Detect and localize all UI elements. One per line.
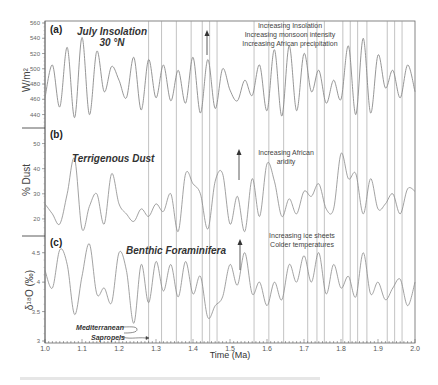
y-tick-label: 3 — [37, 338, 41, 344]
panel-b-ylabel: % Dust — [21, 164, 32, 196]
panel-a-annotation-1: Increasing Insolation — [258, 22, 322, 30]
panel-a-annotation-2: Increasing monsoon intensity — [245, 31, 336, 39]
x-tick-label: 1.6 — [262, 345, 272, 352]
panel-a-title: July Insolation — [77, 26, 147, 37]
d18o-series-line — [45, 244, 415, 324]
panel-c-title: Benthic Foraminifera — [126, 245, 226, 256]
event-vertical-lines — [149, 21, 402, 343]
y-tick-label: 30 — [33, 191, 40, 197]
y-tick-label: 50 — [33, 141, 40, 147]
x-axis-label: Time (Ma) — [210, 350, 251, 360]
sapropels-label-2: Sapropels — [91, 334, 125, 342]
y-tick-label: 4.5 — [32, 250, 41, 256]
panel-b-annotation-2: aridity — [277, 158, 296, 166]
y-tick-label: 40 — [33, 166, 40, 172]
x-tick-label: 1.2 — [114, 345, 124, 352]
x-tick-label: 1.4 — [188, 345, 198, 352]
panel-a-annotation-3: Increasing African precipitation — [242, 40, 337, 48]
x-tick-label: 2.0 — [410, 345, 420, 352]
up-arrow-icon — [237, 149, 242, 180]
panel-c-annotation-1: Increasing ice sheets — [269, 232, 335, 240]
panel-b-title: Terrigenous Dust — [72, 153, 155, 164]
x-tick-label: 1.7 — [299, 345, 309, 352]
x-tick-label: 1.0 — [40, 345, 50, 352]
sapropel-pointer-arrow — [120, 327, 149, 340]
y-tick-label: 4 — [37, 279, 41, 285]
figure-caption-blur — [20, 377, 320, 380]
panel-c-ylabel: δ¹⁸O (‰) — [24, 270, 35, 310]
panel-b-annotation-1: Increasing African — [258, 149, 314, 157]
panel-a-letter: (a) — [50, 24, 62, 35]
dust-series-line — [45, 153, 415, 232]
panel-a-ylabel: W/m² — [21, 67, 32, 92]
x-tick-label: 1.1 — [77, 345, 87, 352]
insolation-series-line — [45, 37, 415, 117]
y-tick-label: 520 — [30, 51, 41, 57]
up-arrow-icon — [205, 30, 210, 55]
y-tick-label: 440 — [30, 112, 41, 118]
y-tick-label: 540 — [30, 35, 41, 41]
x-tick-label: 1.8 — [336, 345, 346, 352]
panel-b-letter: (b) — [50, 129, 63, 140]
y-tick-label: 560 — [30, 20, 41, 26]
y-tick-label: 460 — [30, 96, 41, 102]
paleoclimate-figure: 4404604805005205405602030405033.544.5 1.… — [0, 0, 438, 385]
x-tick-label: 1.9 — [373, 345, 383, 352]
x-tick-label: 1.3 — [151, 345, 161, 352]
panel-c-annotation-2: Colder temperatures — [270, 241, 334, 249]
panel-a-subtitle: 30 °N — [99, 37, 125, 48]
panel-c-letter: (c) — [50, 237, 62, 248]
y-tick-label: 20 — [33, 216, 40, 222]
sapropels-label-1: Mediterranean — [76, 324, 124, 331]
